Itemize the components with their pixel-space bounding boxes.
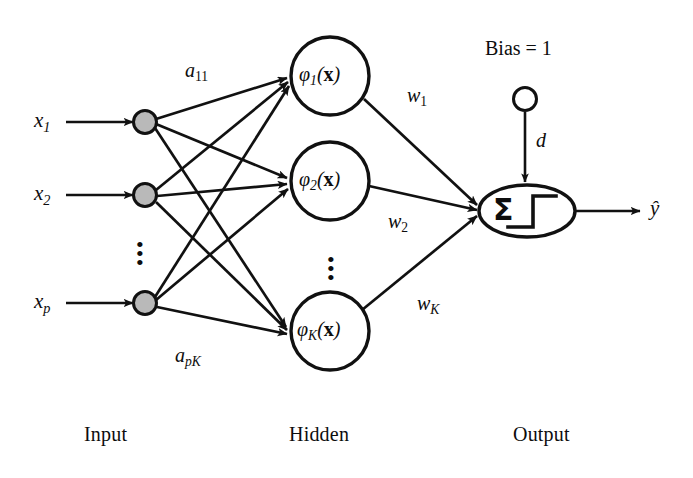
input-arrows	[66, 122, 133, 303]
hidden-node-label-2: φ2(x)	[299, 169, 340, 193]
input-label-xp: xp	[34, 291, 50, 315]
input-nodes	[134, 111, 157, 315]
layer-caption-hidden: Hidden	[289, 424, 349, 444]
layer-caption-output: Output	[513, 424, 570, 444]
bias-group	[514, 88, 537, 183]
summation-symbol: Σ	[493, 195, 514, 225]
input-ellipsis: •••	[136, 240, 142, 267]
hidden-node-label-K: φK(x)	[297, 319, 341, 343]
hidden-node-label-1: φ1(x)	[299, 64, 340, 88]
input-to-hidden-edges	[155, 78, 289, 334]
weight-label-a11: a11	[185, 60, 208, 84]
network-diagram-svg	[0, 0, 693, 478]
weight-label-w2: w2	[388, 211, 408, 235]
hidden-to-output-edges	[362, 99, 477, 310]
input-label-x2: x2	[34, 183, 50, 207]
input-label-x1: x1	[34, 110, 50, 134]
bias-weight-label-d: d	[536, 130, 546, 150]
hidden-ellipsis: •••	[327, 255, 333, 282]
weight-label-apK: apK	[175, 345, 201, 369]
output-label-yhat: ŷ	[650, 198, 659, 219]
layer-caption-input: Input	[84, 424, 127, 444]
weight-label-w1: w1	[407, 85, 427, 109]
diagram-canvas: x1 x2 xp ••• ••• φ1(x) φ2(x) φK(x) a11 a…	[0, 0, 693, 478]
bias-label: Bias = 1	[485, 38, 552, 58]
weight-label-wK: wK	[417, 293, 439, 317]
